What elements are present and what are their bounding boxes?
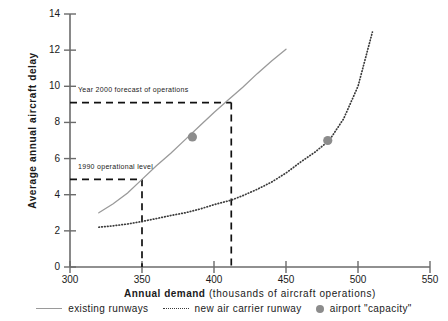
y-tick-label-14: 14 <box>34 8 60 19</box>
x-tick-label-500: 500 <box>338 274 378 285</box>
reference-lines <box>70 103 231 267</box>
x-tick-label-400: 400 <box>194 274 234 285</box>
x-axis-title: Annual demand (thousands of aircraft ope… <box>70 288 430 299</box>
filled-circle-icon <box>316 305 324 313</box>
chart-legend: existing runways new air carrier runway … <box>0 303 448 314</box>
x-tick-label-450: 450 <box>266 274 306 285</box>
delay-vs-demand-chart: 0 2 4 6 8 10 12 14 300 350 400 450 500 5… <box>0 0 448 321</box>
x-tick-label-350: 350 <box>122 274 162 285</box>
capacity-markers <box>188 132 333 145</box>
y-tick-label-0: 0 <box>34 261 60 272</box>
x-tick-label-300: 300 <box>50 274 90 285</box>
y-tick-label-8: 8 <box>34 116 60 127</box>
x-axis-title-rest: (thousands of aircraft operations) <box>209 288 376 299</box>
y-tick-label-6: 6 <box>34 153 60 164</box>
legend-item-new-air-carrier-runway[interactable]: new air carrier runway <box>163 303 302 314</box>
series-new-air-carrier-runway-curve <box>99 32 373 227</box>
x-tick-label-550: 550 <box>410 274 448 285</box>
x-axis-title-bold: Annual demand <box>124 288 206 299</box>
y-tick-label-12: 12 <box>34 44 60 55</box>
airport-capacity-marker-new-runway <box>323 136 332 145</box>
legend-item-existing-runways[interactable]: existing runways <box>36 303 148 314</box>
annotation-year-2000-forecast: Year 2000 forecast of operations <box>78 86 189 93</box>
y-axis-title: Average annual aircraft delay <box>27 36 38 226</box>
data-series <box>99 32 373 231</box>
solid-line-icon <box>36 308 62 309</box>
airport-capacity-marker-existing <box>188 132 197 141</box>
y-tick-label-10: 10 <box>34 80 60 91</box>
legend-item-airport-capacity[interactable]: airport "capacity" <box>316 303 412 314</box>
axes <box>64 14 430 273</box>
legend-label-existing-runways: existing runways <box>68 303 148 314</box>
series-existing-runways <box>99 49 286 213</box>
plot-area <box>0 0 448 321</box>
y-tick-label-4: 4 <box>34 189 60 200</box>
annotation-1990-operational-level: 1990 operational level <box>78 163 153 170</box>
dotted-line-icon <box>163 308 189 309</box>
legend-label-airport-capacity: airport "capacity" <box>330 303 412 314</box>
series-new-air-carrier-runway <box>99 225 142 231</box>
legend-label-new-air-carrier-runway: new air carrier runway <box>195 303 302 314</box>
y-tick-label-2: 2 <box>34 225 60 236</box>
